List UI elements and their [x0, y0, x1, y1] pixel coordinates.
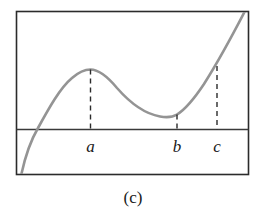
- figure-container: a b c (c): [0, 0, 259, 217]
- axis-label-b: b: [173, 137, 182, 156]
- function-graph-figure: a b c (c): [0, 0, 259, 217]
- axis-label-a: a: [86, 137, 95, 156]
- figure-caption: (c): [124, 188, 143, 207]
- plot-background: [0, 0, 259, 217]
- axis-label-c: c: [213, 137, 221, 156]
